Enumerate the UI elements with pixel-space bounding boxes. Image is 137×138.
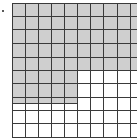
grid-line-vertical xyxy=(12,3,13,138)
shaded-region-left xyxy=(12,70,77,103)
grid-line-vertical xyxy=(90,3,91,138)
grid-line-horizontal xyxy=(12,97,137,98)
grid-line-horizontal xyxy=(12,123,137,124)
grid-line-vertical xyxy=(103,3,104,138)
grid-line-horizontal xyxy=(12,43,137,44)
grid-line-horizontal xyxy=(12,110,137,111)
grid-line-horizontal xyxy=(12,3,137,4)
grid-line-vertical xyxy=(25,3,26,138)
grid-line-horizontal xyxy=(12,70,137,71)
grid-line-horizontal xyxy=(12,137,137,138)
grid-line-horizontal xyxy=(12,16,137,17)
bullet-marker xyxy=(2,10,4,12)
grid-line-horizontal xyxy=(12,83,137,84)
grid-line-vertical xyxy=(117,3,118,138)
grid-line-horizontal xyxy=(12,29,137,30)
hundred-grid xyxy=(12,3,137,137)
grid-line-vertical xyxy=(51,3,52,138)
grid-line-vertical xyxy=(38,3,39,138)
shaded-region-top xyxy=(12,3,137,70)
half-row-divider xyxy=(12,103,77,104)
grid-line-vertical xyxy=(77,3,78,138)
grid-line-horizontal xyxy=(12,57,137,58)
grid-line-vertical xyxy=(64,3,65,138)
grid-line-vertical xyxy=(130,3,131,138)
